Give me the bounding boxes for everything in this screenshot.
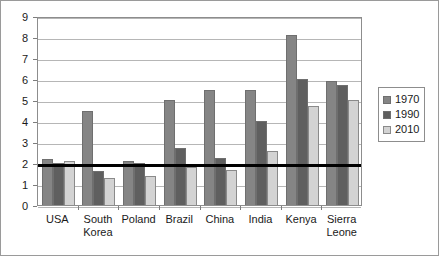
bar <box>226 170 237 205</box>
x-tick-label: Brazil <box>159 213 200 226</box>
bar <box>104 178 115 205</box>
bar <box>267 151 278 205</box>
y-tick-label: 0 <box>1 201 28 212</box>
x-tick-mark <box>240 206 241 210</box>
bar-group <box>38 16 79 205</box>
bar <box>164 100 175 205</box>
plot-area <box>37 17 362 206</box>
chart-figure: 0123456789 USASouth KoreaPolandBrazilChi… <box>0 0 439 256</box>
x-tick-mark <box>321 206 322 210</box>
x-tick-mark <box>281 206 282 210</box>
legend-item[interactable]: 1990 <box>383 107 419 122</box>
bar <box>286 35 297 205</box>
y-tick-label: 7 <box>1 54 28 65</box>
bar <box>326 81 337 205</box>
x-tick-label: China <box>200 213 241 226</box>
bar <box>348 100 359 205</box>
x-tick-label: Kenya <box>281 213 322 226</box>
legend-item[interactable]: 1970 <box>383 92 419 107</box>
bar <box>123 161 134 205</box>
y-tick-label: 8 <box>1 33 28 44</box>
bar-group <box>79 16 120 205</box>
legend-item[interactable]: 2010 <box>383 122 419 137</box>
bar <box>64 161 75 205</box>
bar <box>82 111 93 206</box>
y-tick-label: 6 <box>1 75 28 86</box>
bar-group <box>282 16 323 205</box>
bar <box>256 121 267 205</box>
legend-swatch-icon <box>383 126 391 134</box>
bar <box>93 171 104 205</box>
bar-group <box>160 16 201 205</box>
bar <box>337 85 348 205</box>
legend-label: 1970 <box>395 94 419 105</box>
x-tick-mark <box>78 206 79 210</box>
x-tick-label: South Korea <box>78 213 119 239</box>
x-tick-mark <box>159 206 160 210</box>
bar-group <box>119 16 160 205</box>
legend-swatch-icon <box>383 111 391 119</box>
bar <box>245 90 256 206</box>
x-tick-label: India <box>240 213 281 226</box>
bar <box>145 176 156 205</box>
y-tick-label: 2 <box>1 159 28 170</box>
bar <box>134 163 145 205</box>
x-tick-mark <box>118 206 119 210</box>
bar-group <box>322 16 363 205</box>
bar-group <box>201 16 242 205</box>
x-tick-label: USA <box>37 213 78 226</box>
chart-legend: 197019902010 <box>378 87 425 142</box>
x-tick-mark <box>200 206 201 210</box>
legend-label: 1990 <box>395 109 419 120</box>
bar <box>186 167 197 205</box>
legend-label: 2010 <box>395 124 419 135</box>
legend-swatch-icon <box>383 96 391 104</box>
x-tick-label: Poland <box>118 213 159 226</box>
reference-line <box>38 164 361 167</box>
bar <box>175 148 186 205</box>
y-tick-label: 9 <box>1 12 28 23</box>
bar <box>204 90 215 206</box>
y-tick-label: 3 <box>1 138 28 149</box>
y-tick-label: 4 <box>1 117 28 128</box>
y-tick-label: 1 <box>1 180 28 191</box>
bar <box>308 106 319 205</box>
y-tick-mark <box>33 206 37 207</box>
bar-group <box>241 16 282 205</box>
x-tick-label: Sierra Leone <box>321 213 362 239</box>
bar <box>297 79 308 205</box>
y-tick-label: 5 <box>1 96 28 107</box>
bar <box>53 163 64 205</box>
